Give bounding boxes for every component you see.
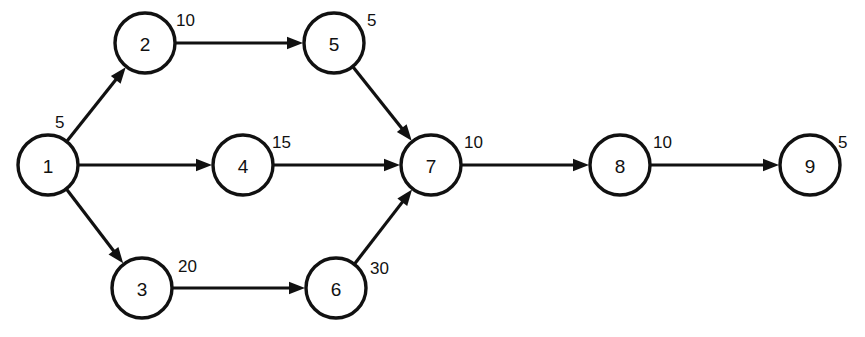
arrowhead-icon-7-8 xyxy=(573,159,589,171)
edge-weight-label-6-7: 30 xyxy=(370,259,389,278)
arrowhead-icon-3-6 xyxy=(289,282,305,294)
edge-6-to-7 xyxy=(354,201,403,265)
node-7[interactable]: 7 xyxy=(401,135,461,195)
node-4[interactable]: 4 xyxy=(213,135,273,195)
node-label-7: 7 xyxy=(426,156,437,177)
node-label-3: 3 xyxy=(137,279,148,300)
node-label-6: 6 xyxy=(331,279,342,300)
node-label-1: 1 xyxy=(43,156,54,177)
edge-weight-label-5-7: 5 xyxy=(367,11,376,30)
edge-1-to-2 xyxy=(67,78,117,141)
arrowhead-icon-8-9 xyxy=(763,159,779,171)
edge-weight-label-3-6: 20 xyxy=(178,257,197,276)
edge-weight-label-4-7: 15 xyxy=(272,133,291,152)
node-label-8: 8 xyxy=(615,156,626,177)
network-diagram-canvas: 123456789 510515203010105 xyxy=(0,0,865,337)
edge-weight-label-2-5: 10 xyxy=(176,11,195,30)
node-label-2: 2 xyxy=(140,34,151,55)
edge-weight-label-8-9: 10 xyxy=(653,133,672,152)
node-9[interactable]: 9 xyxy=(780,135,840,195)
edge-weight-label-1-2: 5 xyxy=(55,113,64,132)
edge-1-to-3 xyxy=(66,189,114,252)
node-label-9: 9 xyxy=(805,156,816,177)
node-3[interactable]: 3 xyxy=(112,258,172,318)
node-1[interactable]: 1 xyxy=(18,135,78,195)
node-label-5: 5 xyxy=(329,34,340,55)
node-2[interactable]: 2 xyxy=(115,13,175,73)
node-5[interactable]: 5 xyxy=(304,13,364,73)
edge-5-to-7 xyxy=(353,66,403,129)
edge-weight-label-7-8: 10 xyxy=(464,133,483,152)
annotation-label-9: 5 xyxy=(838,133,847,152)
arrowhead-icon-1-4 xyxy=(196,159,212,171)
network-diagram: 123456789 510515203010105 xyxy=(0,0,865,337)
arrowhead-icon-4-7 xyxy=(384,159,400,171)
arrowhead-icon-2-5 xyxy=(287,37,303,49)
node-6[interactable]: 6 xyxy=(306,258,366,318)
node-label-4: 4 xyxy=(238,156,249,177)
node-8[interactable]: 8 xyxy=(590,135,650,195)
